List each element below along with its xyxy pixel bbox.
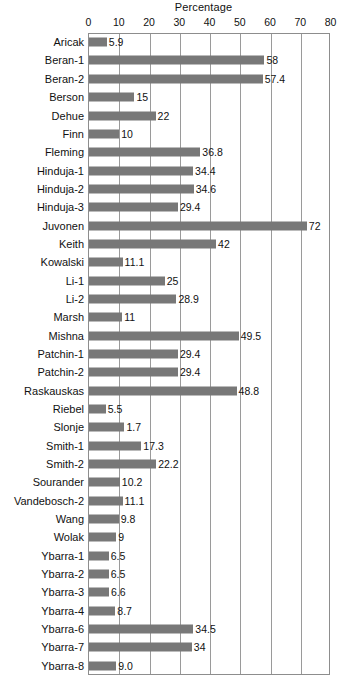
category-label: Ybarra-2 <box>41 568 84 580</box>
category-label: Ybarra-3 <box>41 586 84 598</box>
category-label: Dehue <box>52 110 84 122</box>
bar-row: Ybarra-634.5 <box>0 620 349 638</box>
bar <box>89 643 192 652</box>
bar <box>89 313 122 322</box>
bar-row: Ybarra-26.5 <box>0 565 349 583</box>
bar-value-label: 9 <box>118 531 124 543</box>
bar <box>89 129 119 138</box>
bar-value-label: 34.4 <box>195 165 215 177</box>
category-label: Wolak <box>54 531 84 543</box>
category-label: Smith-1 <box>46 440 84 452</box>
bar-row: Li-228.9 <box>0 290 349 308</box>
bar-value-label: 29.4 <box>180 201 200 213</box>
bar-row: Juvonen72 <box>0 216 349 234</box>
category-label: Hinduja-1 <box>37 165 84 177</box>
bar <box>89 606 115 615</box>
bar <box>89 460 156 469</box>
bar-value-label: 28.9 <box>178 293 198 305</box>
bar-row: Smith-222.2 <box>0 455 349 473</box>
category-label: Li-1 <box>66 275 84 287</box>
bar-rows: Aricak5.9Beran-158Beran-257.4Berson15Deh… <box>0 33 349 675</box>
category-label: Hinduja-3 <box>37 201 84 213</box>
category-label: Patchin-1 <box>38 348 84 360</box>
bar-row: Hinduja-234.6 <box>0 180 349 198</box>
category-label: Keith <box>59 238 84 250</box>
category-label: Raskauskas <box>24 385 84 397</box>
bar-value-label: 6.5 <box>111 568 126 580</box>
category-label: Vandebosch-2 <box>14 495 84 507</box>
x-tick-label: 10 <box>113 16 125 28</box>
bar <box>89 368 178 377</box>
bar-row: Slonje1.7 <box>0 418 349 436</box>
x-tick-label: 40 <box>204 16 216 28</box>
x-tick-label: 30 <box>173 16 185 28</box>
bar-row: Li-125 <box>0 271 349 289</box>
bar <box>89 294 176 303</box>
x-tick-label: 80 <box>325 16 337 28</box>
category-label: Beran-1 <box>45 54 84 66</box>
category-label: Aricak <box>53 36 84 48</box>
category-label: Beran-2 <box>45 73 84 85</box>
chart-title: Percentage <box>0 1 349 13</box>
category-label: Riebel <box>53 403 84 415</box>
bar <box>89 405 106 414</box>
bar <box>89 184 194 193</box>
bar-value-label: 11.1 <box>125 256 145 268</box>
category-label: Ybarra-4 <box>41 605 84 617</box>
bar-row: Wang9.8 <box>0 510 349 528</box>
bar-value-label: 49.5 <box>241 330 261 342</box>
bar <box>89 533 116 542</box>
bar-row: Sourander10.2 <box>0 473 349 491</box>
x-tick-label: 70 <box>294 16 306 28</box>
bar-row: Aricak5.9 <box>0 33 349 51</box>
bar-row: Ybarra-36.6 <box>0 583 349 601</box>
category-label: Finn <box>63 128 84 140</box>
category-label: Berson <box>49 91 84 103</box>
bar-value-label: 36.8 <box>202 146 222 158</box>
bar-row: Riebel5.5 <box>0 400 349 418</box>
bar-row: Beran-257.4 <box>0 70 349 88</box>
bar-row: Smith-117.3 <box>0 437 349 455</box>
bar-value-label: 10.2 <box>122 476 142 488</box>
category-label: Slonje <box>53 421 84 433</box>
bar-value-label: 8.7 <box>117 605 132 617</box>
bar-row: Marsh11 <box>0 308 349 326</box>
bar <box>89 441 141 450</box>
bar-row: Kowalski11.1 <box>0 253 349 271</box>
bar-row: Hinduja-329.4 <box>0 198 349 216</box>
category-label: Smith-2 <box>46 458 84 470</box>
bar-value-label: 29.4 <box>180 348 200 360</box>
bar-value-label: 6.6 <box>111 586 126 598</box>
bar-value-label: 6.5 <box>111 550 126 562</box>
bar-value-label: 34 <box>194 641 206 653</box>
category-label: Fleming <box>45 146 84 158</box>
bar-value-label: 72 <box>309 220 321 232</box>
bar <box>89 331 239 340</box>
bar-value-label: 10 <box>121 128 133 140</box>
category-label: Hinduja-2 <box>37 183 84 195</box>
category-label: Marsh <box>53 311 84 323</box>
bar-row: Ybarra-734 <box>0 638 349 656</box>
bar <box>89 496 123 505</box>
category-label: Li-2 <box>66 293 84 305</box>
bar-value-label: 1.7 <box>126 421 141 433</box>
bar-value-label: 29.4 <box>180 366 200 378</box>
bar-row: Ybarra-89.0 <box>0 657 349 675</box>
bar-value-label: 9.0 <box>118 660 133 672</box>
bar <box>89 38 107 47</box>
bar <box>89 166 193 175</box>
bar-row: Vandebosch-211.1 <box>0 492 349 510</box>
bar <box>89 276 165 285</box>
bar <box>89 221 307 230</box>
category-label: Ybarra-1 <box>41 550 84 562</box>
x-tick-label: 60 <box>264 16 276 28</box>
bar-value-label: 15 <box>136 91 148 103</box>
bar-row: Patchin-129.4 <box>0 345 349 363</box>
category-label: Patchin-2 <box>38 366 84 378</box>
x-tick-label: 20 <box>143 16 155 28</box>
bar-chart: Percentage 01020304050607080 Aricak5.9Be… <box>0 0 349 689</box>
bar-row: Wolak9 <box>0 528 349 546</box>
bar <box>89 258 123 267</box>
category-label: Ybarra-6 <box>41 623 84 635</box>
bar <box>89 588 109 597</box>
